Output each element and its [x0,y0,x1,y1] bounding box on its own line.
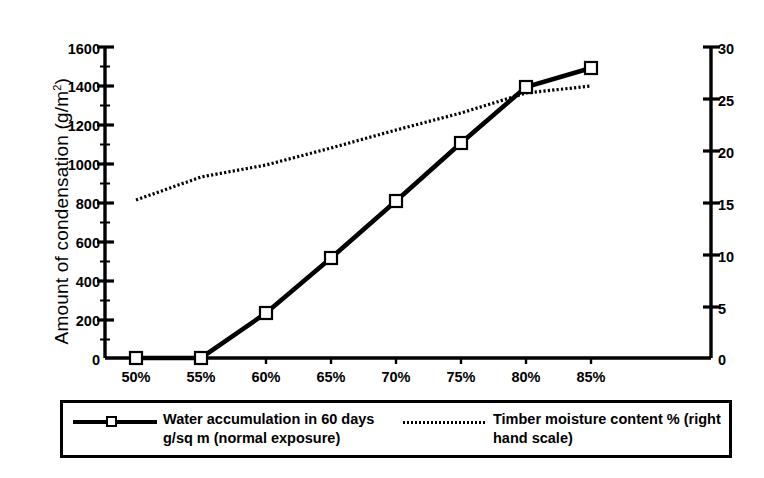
data-point-65 [325,252,337,264]
chart-legend: Water accumulation in 60 days g/sq m (no… [60,400,732,458]
legend-entry-timber-moisture: Timber moisture content % (right hand sc… [403,410,723,447]
data-point-55 [195,352,207,364]
series-water-accumulation-markers [130,62,597,364]
chart-figure: Amount of condensation (g/m2) 1600 1400 … [0,0,764,478]
data-point-60 [260,307,272,319]
series-timber-moisture [136,86,591,200]
legend-label-water-accumulation: Water accumulation in 60 days g/sq m (no… [163,410,374,447]
legend-label-timber-line1: Timber moisture content % (right [493,411,721,427]
legend-swatch-solid-square-icon [73,412,157,430]
legend-swatch-dotted-icon [403,412,487,430]
data-point-50 [130,352,142,364]
legend-label-timber-moisture: Timber moisture content % (right hand sc… [493,410,721,447]
data-point-70 [390,195,402,207]
data-point-75 [455,137,467,149]
data-point-80 [520,81,532,93]
legend-label-timber-line2: hand scale) [493,430,573,446]
series-water-accumulation-line [136,68,591,358]
legend-label-water-line1: Water accumulation in 60 days [163,411,374,427]
legend-label-water-line2: g/sq m (normal exposure) [163,430,340,446]
legend-entry-water-accumulation: Water accumulation in 60 days g/sq m (no… [73,410,393,447]
data-point-85 [585,62,597,74]
